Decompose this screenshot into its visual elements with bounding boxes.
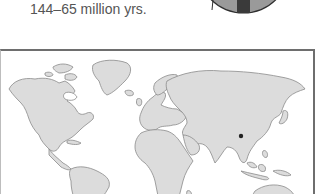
world-map — [0, 49, 315, 194]
continent-north-america — [9, 78, 94, 151]
era-disc-illustration — [196, 0, 291, 14]
era-caption: 144–65 million yrs. — [30, 1, 147, 17]
location-marker-dot — [239, 134, 243, 138]
continent-greenland — [92, 60, 130, 95]
continent-south-america — [70, 167, 110, 194]
continent-australia — [250, 185, 295, 194]
